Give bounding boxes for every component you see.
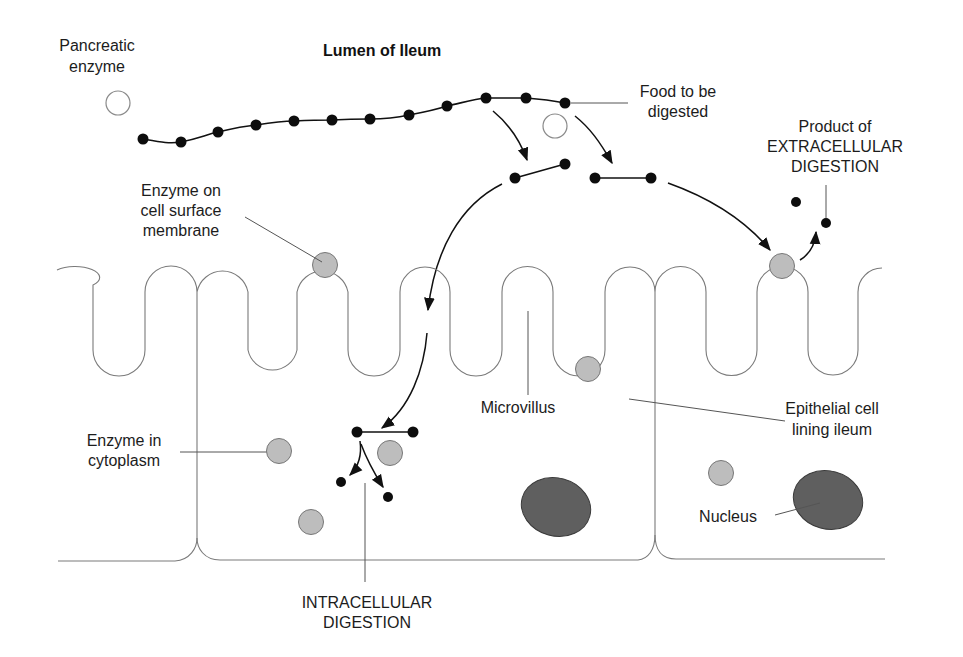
svg-text:Enzyme on: Enzyme on: [141, 182, 221, 199]
label-microvillus: Microvillus: [481, 399, 556, 416]
pancreatic-enzyme-icon-2: [543, 114, 567, 138]
intracellular-dipeptide: [352, 427, 419, 438]
svg-text:enzyme: enzyme: [69, 58, 125, 75]
svg-text:Epithelial cell: Epithelial cell: [785, 400, 878, 417]
svg-text:DIGESTION: DIGESTION: [791, 158, 879, 175]
nucleus-icon: [787, 463, 870, 537]
dipeptide-1: [510, 159, 571, 184]
diagram-title: Lumen of Ileum: [323, 42, 441, 59]
label-enzyme-surface: Enzyme on cell surface membrane: [141, 182, 222, 239]
amino-acid: [821, 218, 831, 228]
label-product: Product of EXTRACELLULAR DIGESTION: [767, 118, 903, 175]
svg-text:Enzyme in: Enzyme in: [87, 432, 162, 449]
svg-text:membrane: membrane: [143, 222, 220, 239]
svg-text:Pancreatic: Pancreatic: [59, 37, 135, 54]
label-intracellular: INTRACELLULAR DIGESTION: [302, 594, 433, 631]
leader-epithelial: [629, 399, 785, 421]
label-epithelial: Epithelial cell lining ileum: [785, 400, 878, 438]
label-enzyme-cytoplasm: Enzyme in cytoplasm: [87, 432, 162, 469]
svg-text:INTRACELLULAR: INTRACELLULAR: [302, 594, 433, 611]
cell-boundary-right: [655, 535, 885, 559]
label-food: Food to be digested: [640, 83, 717, 120]
cell-surface-membrane: [57, 266, 882, 376]
svg-text:cytoplasm: cytoplasm: [88, 452, 160, 469]
cytoplasm-enzyme-icon: [709, 461, 734, 486]
cytoplasm-enzyme-icon: [299, 510, 324, 535]
svg-text:lining ileum: lining ileum: [792, 421, 872, 438]
cell-boundary-left: [58, 292, 197, 561]
digestion-diagram: Lumen of Ileum Pancreatic enzyme Food to…: [0, 0, 963, 657]
amino-acid: [336, 477, 346, 487]
cytoplasm-enzyme-icon: [267, 439, 292, 464]
surface-enzyme-icon: [576, 357, 601, 382]
leader-enzyme-surface: [245, 217, 322, 262]
surface-enzyme-icon: [313, 253, 338, 278]
svg-text:Food to be: Food to be: [640, 83, 717, 100]
svg-text:Product of: Product of: [799, 118, 872, 135]
label-nucleus: Nucleus: [699, 508, 757, 525]
arrow-cleave-1: [493, 111, 527, 160]
arrow-absorb: [428, 184, 502, 310]
arrow-absorb-2: [382, 333, 427, 428]
label-pancreatic-enzyme: Pancreatic enzyme: [59, 37, 135, 75]
svg-text:digested: digested: [648, 103, 709, 120]
pancreatic-enzyme-icon: [106, 91, 130, 115]
amino-acid: [383, 492, 393, 502]
surface-enzyme-icon: [770, 254, 795, 279]
svg-text:DIGESTION: DIGESTION: [323, 614, 411, 631]
arrow-release-product: [800, 232, 816, 260]
svg-text:EXTRACELLULAR: EXTRACELLULAR: [767, 138, 903, 155]
svg-text:cell surface: cell surface: [141, 202, 222, 219]
arrow-split-left: [350, 441, 361, 475]
food-molecule-chain: [138, 93, 571, 148]
nucleus-icon: [515, 470, 598, 544]
arrow-to-surface-enzyme: [668, 183, 770, 250]
amino-acid: [791, 197, 801, 207]
cytoplasm-enzyme-icon: [378, 441, 403, 466]
dipeptide-2: [590, 173, 657, 184]
arrow-cleave-2: [575, 116, 612, 163]
